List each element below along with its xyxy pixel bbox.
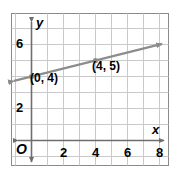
x-axis-name: x (152, 123, 159, 136)
point-label-0-4: (0, 4) (30, 72, 58, 84)
origin-label: O (16, 142, 27, 156)
x-tick-label-8: 8 (156, 146, 163, 159)
x-tick-label-2: 2 (60, 146, 67, 159)
point-label-4-5: (4, 5) (92, 60, 120, 72)
x-tick-label-4: 4 (92, 146, 99, 159)
x-tick-label-6: 6 (124, 146, 131, 159)
y-tick-label-6: 6 (16, 37, 23, 50)
plot-frame (12, 14, 169, 166)
coordinate-plane-figure: 6 2 2 4 6 8 y x O (0, 4) (4, 5) (0, 0, 180, 179)
graph-canvas (0, 0, 180, 179)
y-tick-label-2: 2 (16, 101, 23, 114)
y-axis-name: y (36, 16, 43, 29)
